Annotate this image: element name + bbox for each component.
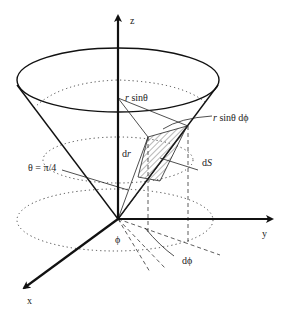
phi-label: ϕ	[115, 234, 120, 245]
spherical-cone-diagram: z y x r sinθ r sinθ dϕ dr dS θ = π/4 ϕ d…	[0, 0, 281, 314]
cone-left-edge	[17, 85, 118, 219]
ground-ray-1	[118, 219, 220, 255]
dS-hatched-patch	[138, 126, 187, 181]
x-axis	[24, 219, 118, 288]
x-axis-label: x	[27, 295, 32, 306]
ground-ray-2	[118, 219, 165, 268]
dS-label: dS	[202, 157, 212, 168]
theta-label: θ = π/4	[28, 162, 56, 173]
ground-ray-3	[118, 219, 150, 272]
dphi-label: dϕ	[182, 255, 192, 266]
r-sin-theta-dphi-label: r sinθ dϕ	[213, 112, 249, 123]
r-sin-theta-label: r sinθ	[125, 92, 148, 103]
upper-dotted-circle	[34, 80, 205, 108]
z-axis-label: z	[130, 15, 135, 26]
dr-label: dr	[122, 148, 131, 159]
y-axis-label: y	[262, 228, 267, 239]
